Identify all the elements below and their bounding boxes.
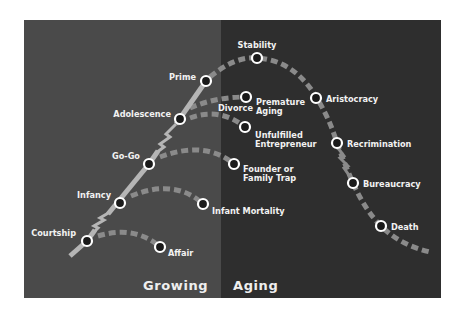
label-founder-trap-2: Family Trap	[243, 173, 296, 183]
node-unfulfilled	[240, 122, 250, 132]
label-prime: Prime	[169, 72, 196, 82]
node-aristocracy	[311, 93, 321, 103]
node-death	[376, 221, 386, 231]
node-adolescence	[175, 114, 185, 124]
node-infant-mortality	[198, 199, 208, 209]
node-prime	[201, 76, 211, 86]
node-premature-aging	[241, 92, 251, 102]
phase-aging: Aging	[233, 278, 278, 293]
phase-growing: Growing	[143, 278, 208, 293]
lifecycle-diagram: Courtship Infancy Go-Go Adolescence Prim…	[0, 0, 465, 315]
node-stability	[252, 53, 262, 63]
label-unfulfilled-2: Entrepreneur	[255, 139, 318, 149]
label-go-go: Go-Go	[112, 151, 140, 161]
label-death: Death	[391, 222, 419, 232]
node-infancy	[115, 198, 125, 208]
node-founder-trap	[229, 159, 239, 169]
label-infant-mortality: Infant Mortality	[212, 206, 285, 216]
node-bureaucracy	[348, 178, 358, 188]
label-affair: Affair	[168, 248, 194, 258]
label-bureaucracy: Bureaucracy	[363, 179, 421, 189]
node-affair	[155, 242, 165, 252]
node-go-go	[144, 159, 154, 169]
label-stability: Stability	[238, 40, 278, 50]
label-courtship: Courtship	[31, 228, 76, 238]
label-premature-aging-2: Aging	[256, 106, 283, 116]
label-adolescence: Adolescence	[113, 109, 171, 119]
node-recrimination	[332, 138, 342, 148]
label-divorce: Divorce	[218, 103, 253, 113]
label-aristocracy: Aristocracy	[326, 94, 379, 104]
label-recrimination: Recrimination	[347, 139, 412, 149]
label-infancy: Infancy	[77, 190, 112, 200]
node-courtship	[82, 236, 92, 246]
